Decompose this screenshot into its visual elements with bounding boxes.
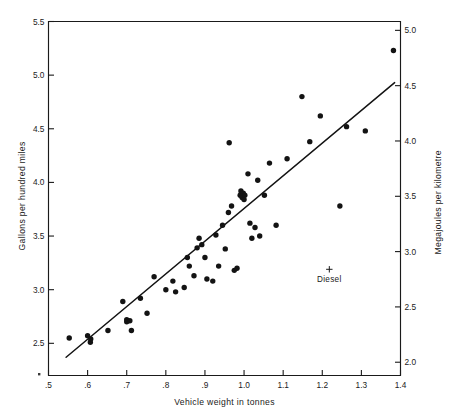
- y2-axis-tick-label: 3.5: [405, 191, 417, 201]
- x-axis-title: Vehicle weight in tonnes: [174, 397, 275, 407]
- scatter-data-point: [138, 296, 143, 301]
- scatter-data-point: [226, 210, 231, 215]
- scatter-data-point: [120, 299, 125, 304]
- scatter-data-point: [202, 255, 207, 260]
- scatter-data-point: [127, 318, 132, 323]
- x-axis-tick-label: 1.1: [277, 380, 289, 390]
- scatter-data-point: [249, 235, 254, 240]
- scatter-data-point: [163, 287, 168, 292]
- scatter-data-point: [252, 225, 257, 230]
- scatter-data-point: [234, 266, 239, 271]
- scatter-data-point: [284, 156, 289, 161]
- scatter-data-point: [173, 289, 178, 294]
- scatter-data-point: [223, 246, 228, 251]
- scatter-data-point: [170, 278, 175, 283]
- scatter-data-point: [229, 203, 234, 208]
- scatter-data-point: [337, 203, 342, 208]
- scatter-data-point: [242, 193, 247, 198]
- y-axis-tick-label: 2.5: [33, 338, 45, 348]
- scatter-data-point: [226, 140, 231, 145]
- diesel-label: Diesel: [317, 275, 342, 284]
- scatter-data-point: [67, 335, 72, 340]
- scatter-data-point: [210, 278, 215, 283]
- scatter-data-point: [245, 171, 250, 176]
- x-axis-tick-label: 1.3: [356, 380, 368, 390]
- plot-canvas: 2.53.03.54.04.55.05.52.02.53.03.54.04.55…: [0, 0, 460, 411]
- scatter-data-point: [199, 242, 204, 247]
- scatter-data-point: [187, 263, 192, 268]
- x-axis-tick-label: 1.2: [317, 380, 329, 390]
- y2-axis-tick-label: 4.5: [405, 81, 417, 91]
- y-axis-tick-label: 5.0: [33, 70, 45, 80]
- scatter-data-point: [151, 274, 156, 279]
- y2-axis-tick-label: 4.0: [405, 136, 417, 146]
- scatter-data-point: [262, 193, 267, 198]
- regression-line: [66, 83, 395, 358]
- y-axis-tick-label: 4.0: [33, 177, 45, 187]
- scatter-data-point: [105, 328, 110, 333]
- y-axis-tick-label: 5.5: [33, 17, 45, 27]
- scatter-data-point: [196, 235, 201, 240]
- x-axis-tick-label: .7: [123, 380, 130, 390]
- scatter-data-point: [144, 311, 149, 316]
- scatter-data-point: [363, 128, 368, 133]
- y-axis-tick-label: 3.5: [33, 231, 45, 241]
- scatter-data-point: [344, 124, 349, 129]
- scatter-data-point: [213, 232, 218, 237]
- y2-axis-tick-label: 3.0: [405, 247, 417, 257]
- scatter-data-point: [255, 178, 260, 183]
- x-axis-tick-label: .8: [162, 380, 169, 390]
- x-axis-tick-label: 1.0: [238, 380, 250, 390]
- scatter-data-point: [257, 233, 262, 238]
- x-axis-tick-label: .6: [84, 380, 91, 390]
- y2-axis-tick-label: 2.0: [405, 357, 417, 367]
- y-axis-tick-label: 4.5: [33, 124, 45, 134]
- scatter-data-point: [182, 285, 187, 290]
- scatter-data-point: [191, 273, 196, 278]
- x-axis-tick-label: .5: [45, 380, 52, 390]
- y2-axis-title: Megajoules per kilometre: [433, 150, 443, 254]
- y2-axis-tick-label: 5.0: [405, 25, 417, 35]
- scatter-data-point: [220, 223, 225, 228]
- scatter-data-point: [194, 245, 199, 250]
- scatter-data-point: [204, 276, 209, 281]
- scatter-data-point: [185, 255, 190, 260]
- plot-frame: [49, 22, 401, 376]
- scatter-data-point: [318, 113, 323, 118]
- origin-reference-mark: [38, 373, 40, 375]
- scatter-data-point: [247, 220, 252, 225]
- y2-axis-tick-label: 2.5: [405, 302, 417, 312]
- scatter-data-point: [88, 336, 93, 341]
- scatter-data-point: [216, 263, 221, 268]
- scatter-data-point: [391, 48, 396, 53]
- x-axis-tick-label: 1.4: [395, 380, 407, 390]
- scatter-plot-figure: 2.53.03.54.04.55.05.52.02.53.03.54.04.55…: [0, 0, 460, 411]
- y-axis-title: Gallons per hundred miles: [17, 141, 27, 250]
- scatter-data-point: [307, 139, 312, 144]
- y-axis-tick-label: 3.0: [33, 285, 45, 295]
- scatter-data-point: [299, 94, 304, 99]
- scatter-data-point: [267, 160, 272, 165]
- scatter-data-point: [273, 223, 278, 228]
- scatter-data-point: [129, 328, 134, 333]
- x-axis-tick-label: .9: [201, 380, 208, 390]
